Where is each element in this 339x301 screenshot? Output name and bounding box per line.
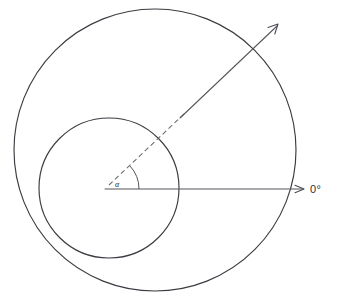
polar-angle-diagram: α 0° [0, 0, 339, 301]
outer-circle [14, 9, 296, 291]
angle-symbol-label: α [115, 180, 120, 189]
diagram-canvas: α 0° [0, 0, 339, 301]
zero-degree-axis-label: 0° [310, 183, 321, 195]
angle-arc [130, 166, 139, 189]
angled-ray-solid-segment [180, 26, 277, 118]
angled-ray-dashed-segment [109, 114, 184, 185]
